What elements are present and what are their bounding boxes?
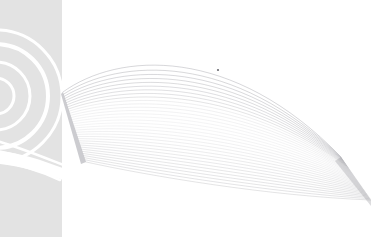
abstract-ribbon-illustration — [0, 0, 371, 237]
artwork-canvas: Abstract Ribbon Graphic — [0, 0, 371, 237]
dark-speck — [217, 69, 219, 71]
left-gray-panel — [0, 0, 62, 237]
